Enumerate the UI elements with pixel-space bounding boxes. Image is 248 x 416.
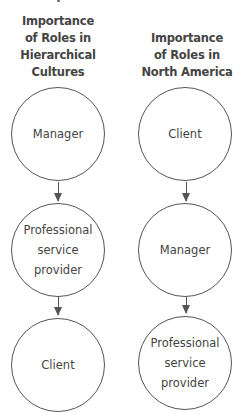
node-label: service <box>164 353 205 373</box>
heading-line: Importance <box>125 30 248 47</box>
node-client: Client <box>11 318 105 412</box>
node-professional-service-provider: Professional service provider <box>138 316 232 410</box>
arrow-down-icon <box>186 182 187 201</box>
node-label: Client <box>41 355 74 375</box>
node-label: Client <box>168 124 201 144</box>
arrow-down-icon <box>186 297 187 313</box>
heading-line: Hierarchical <box>0 47 120 64</box>
heading-line: Cultures <box>0 64 120 81</box>
node-label: Manager <box>33 124 83 144</box>
node-manager: Manager <box>138 203 232 297</box>
heading-line: Importance <box>0 13 120 30</box>
column-heading: Importance of Roles in Hierarchical Cult… <box>0 13 120 81</box>
column-hierarchical-cultures: Importance of Roles in Hierarchical Cult… <box>0 0 124 416</box>
node-label: service <box>37 240 78 260</box>
node-label: provider <box>161 373 209 393</box>
column-north-america: Importance of Roles in North America Cli… <box>124 0 248 416</box>
node-professional-service-provider: Professional service provider <box>11 203 105 297</box>
node-label: Manager <box>160 240 210 260</box>
heading-line: North America <box>125 64 248 81</box>
node-label: Professional <box>23 220 92 240</box>
node-label: provider <box>34 260 82 280</box>
arrow-down-icon <box>58 182 59 201</box>
heading-line: of Roles in <box>125 47 248 64</box>
node-manager: Manager <box>11 87 105 181</box>
node-client: Client <box>138 87 232 181</box>
node-label: Professional <box>150 333 219 353</box>
column-heading: Importance of Roles in North America <box>125 30 248 81</box>
heading-line: of Roles in <box>0 30 120 47</box>
arrow-down-icon <box>58 297 59 315</box>
